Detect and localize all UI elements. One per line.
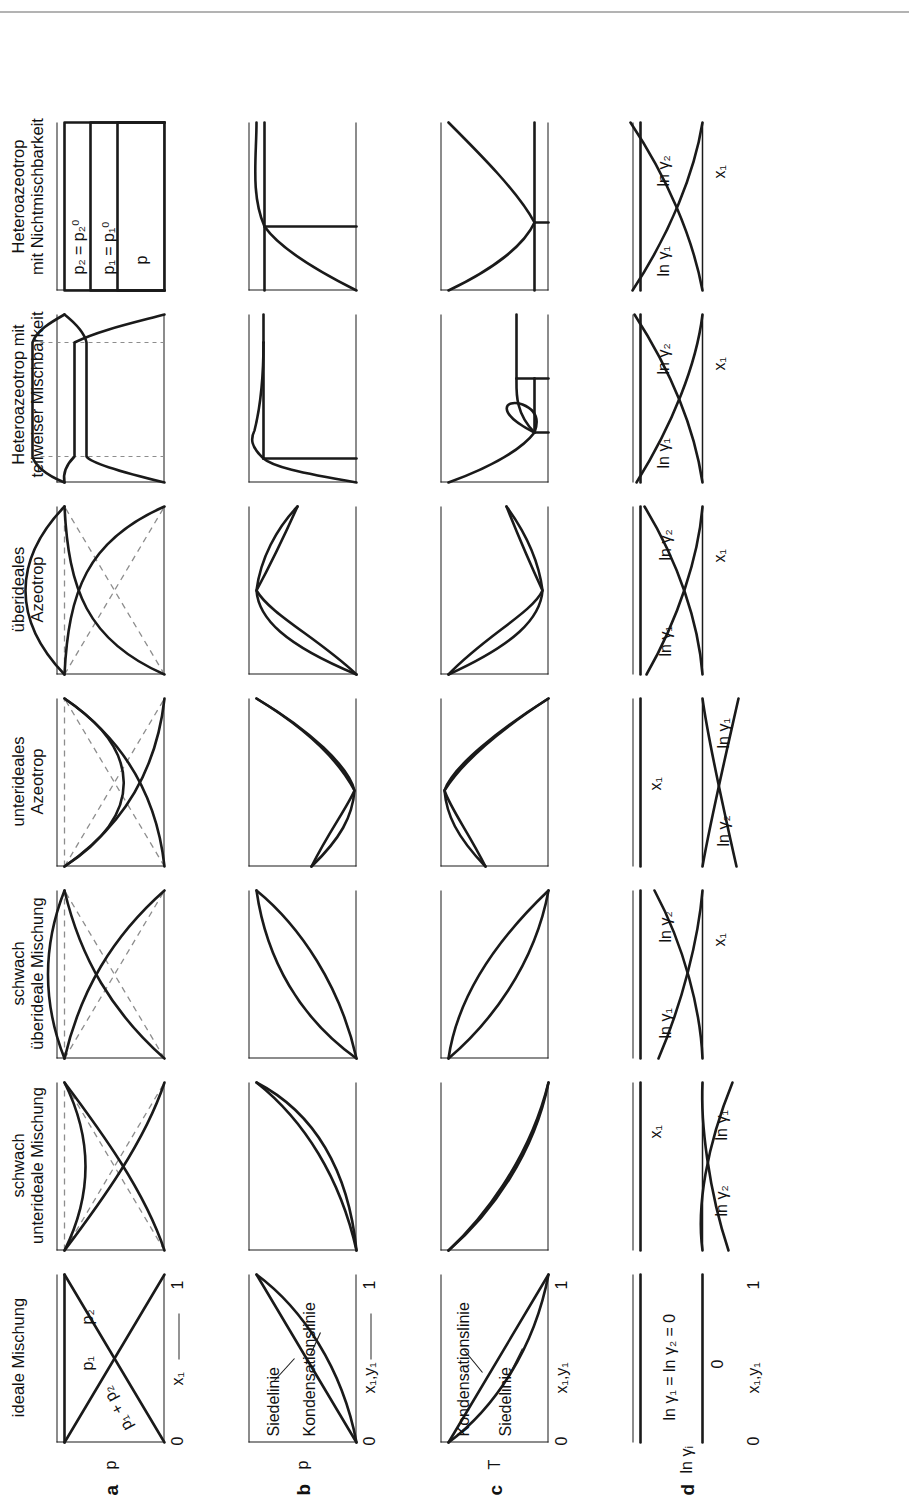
row-a-ylabel: p bbox=[101, 1460, 119, 1469]
figure-rotated-canvas: ideale Mischung schwachunterideale Misch… bbox=[0, 0, 909, 1505]
column-header-line1: ideale Mischung bbox=[8, 1297, 26, 1416]
column-header-weak-pos: schwachüberideale Mischung bbox=[8, 885, 46, 1061]
row-c-tick-1: 1 bbox=[552, 1280, 570, 1289]
panel-b-az-neg bbox=[248, 698, 356, 866]
row-tag-c: c bbox=[484, 1484, 506, 1495]
panel-d-ideal: ln γ₁ = ln γ₂ = 0 0 bbox=[632, 1274, 740, 1442]
row-d-tick-1: 1 bbox=[744, 1280, 762, 1289]
panel-a-az-neg bbox=[56, 698, 164, 866]
row-b-tick-0: 0 bbox=[360, 1436, 378, 1445]
row-d-xlabel: x₁,y₁ bbox=[744, 1362, 762, 1393]
label-kondensationslinie: Kondensationslinie bbox=[300, 1302, 318, 1436]
label-p1: p₁ bbox=[78, 1356, 96, 1370]
panel-c-az-neg bbox=[440, 698, 548, 866]
label-ln-gamma-1: ln γ₁ bbox=[654, 246, 672, 276]
panel-b-az-pos bbox=[248, 506, 356, 674]
label-zero-tick: 0 bbox=[708, 1359, 726, 1368]
panel-c-az-pos bbox=[440, 506, 548, 674]
label-x1: x₁ bbox=[710, 933, 728, 946]
label-ln-gamma-2: ln γ₂ bbox=[654, 343, 672, 374]
column-header-weak-neg: schwachunterideale Mischung bbox=[8, 1077, 46, 1253]
column-header-line1: Heteroazeotrop bbox=[8, 139, 26, 253]
column-header-line1: schwach bbox=[8, 1133, 26, 1197]
row-a-tick-0: 0 bbox=[168, 1436, 186, 1445]
panel-b-hetero-part bbox=[248, 314, 356, 482]
column-header-line1: schwach bbox=[8, 941, 26, 1005]
panel-d-weak-neg: x₁ ln γ₁ ln γ₂ bbox=[632, 1082, 740, 1250]
panel-a-weak-pos bbox=[56, 890, 164, 1058]
row-a-tick-1: 1 bbox=[168, 1280, 186, 1289]
panel-b-hetero-none bbox=[248, 122, 356, 290]
label-ln-gamma-2: ln γ₂ bbox=[656, 911, 674, 942]
column-header-hetero-part: Heteroazeotrop mitteilweiser Mischbarkei… bbox=[8, 299, 46, 489]
row-tag-b: b bbox=[292, 1483, 314, 1495]
row-b-xlabel: x₁,y₁ bbox=[360, 1362, 378, 1393]
panel-b-weak-neg bbox=[248, 1082, 356, 1250]
panel-c-ideal: Kondensationslinie Siedelinie bbox=[440, 1274, 548, 1442]
label-ln-gamma-2: ln γ₂ bbox=[714, 815, 732, 846]
panel-a-hetero-part bbox=[56, 314, 164, 482]
panel-d-hetero-none: x₁ ln γ₂ ln γ₁ bbox=[632, 122, 740, 290]
row-d-tick-0: 0 bbox=[744, 1436, 762, 1445]
panel-a-az-pos bbox=[56, 506, 164, 674]
column-header-line2: unterideale Mischung bbox=[27, 1087, 45, 1244]
column-header-az-pos: überidealesAzeotrop bbox=[8, 501, 46, 677]
figure-container: ideale Mischung schwachunterideale Misch… bbox=[0, 0, 909, 1505]
panel-a-ideal: p₁ + p₂ p₁ p₂ bbox=[56, 1274, 164, 1442]
row-b-ylabel: p bbox=[293, 1460, 311, 1469]
label-x1: x₁ bbox=[710, 549, 728, 562]
label-total-p: p bbox=[132, 255, 150, 264]
label-siedelinie: Siedelinie bbox=[496, 1367, 514, 1436]
panel-d-az-neg: x₁ ln γ₁ ln γ₂ bbox=[632, 698, 740, 866]
row-a-axis-arrow bbox=[178, 1313, 179, 1359]
label-x1: x₁ bbox=[710, 357, 728, 370]
panel-d-az-pos: x₁ ln γ₂ ln γ₁ bbox=[632, 506, 740, 674]
panel-d-weak-pos: x₁ ln γ₂ ln γ₁ bbox=[632, 890, 740, 1058]
label-ln-gamma-zero: ln γ₁ = ln γ₂ = 0 bbox=[660, 1313, 678, 1420]
row-d-ylabel: ln γᵢ bbox=[677, 1446, 695, 1473]
label-kondensationslinie: Kondensationslinie bbox=[454, 1302, 472, 1436]
panel-c-hetero-part bbox=[440, 314, 548, 482]
label-ln-gamma-1: ln γ₁ bbox=[712, 1110, 730, 1140]
column-header-line2: überideale Mischung bbox=[27, 897, 45, 1049]
row-c-tick-0: 0 bbox=[552, 1436, 570, 1445]
label-p2: p₂ bbox=[78, 1309, 96, 1324]
row-a-xlabel: x₁ bbox=[168, 1372, 186, 1385]
row-tag-a: a bbox=[100, 1484, 122, 1495]
column-header-line1: überideales bbox=[8, 546, 26, 631]
label-ln-gamma-1: ln γ₁ bbox=[654, 438, 672, 468]
label-ln-gamma-2: ln γ₂ bbox=[712, 1185, 730, 1216]
column-header-line2: mit Nichtmischbarkeit bbox=[27, 118, 45, 275]
label-x1: x₁ bbox=[646, 1125, 664, 1138]
panel-c-hetero-none bbox=[440, 122, 548, 290]
panel-a-weak-neg bbox=[56, 1082, 164, 1250]
column-header-az-neg: unteridealesAzeotrop bbox=[8, 693, 46, 869]
panel-b-ideal: Siedelinie Kondensationslinie bbox=[248, 1274, 356, 1442]
label-ln-gamma-1: ln γ₁ bbox=[656, 626, 674, 656]
row-c-xlabel: x₁,y₁ bbox=[552, 1362, 570, 1393]
panel-b-weak-pos bbox=[248, 890, 356, 1058]
row-b-tick-1: 1 bbox=[360, 1280, 378, 1289]
column-header-ideal: ideale Mischung bbox=[8, 1269, 27, 1445]
label-p1-equals-p1-0: p₁ = p₁⁰ bbox=[98, 221, 117, 274]
row-b-axis-arrow bbox=[370, 1313, 371, 1359]
label-x1: x₁ bbox=[646, 777, 664, 790]
label-p2-equals-p2-0: p₂ = p₂⁰ bbox=[68, 220, 87, 274]
label-ln-gamma-1: ln γ₁ bbox=[714, 718, 732, 748]
label-x1: x₁ bbox=[710, 165, 728, 178]
panel-c-weak-pos bbox=[440, 890, 548, 1058]
label-siedelinie: Siedelinie bbox=[264, 1367, 282, 1436]
panel-c-weak-neg bbox=[440, 1082, 548, 1250]
row-c-ylabel: T bbox=[485, 1459, 503, 1469]
label-ln-gamma-1: ln γ₁ bbox=[656, 1008, 674, 1038]
label-ln-gamma-2: ln γ₂ bbox=[654, 155, 672, 186]
column-header-hetero-none: Heteroazeotropmit Nichtmischbarkeit bbox=[8, 101, 46, 291]
column-header-line1: Heteroazeotrop mit bbox=[8, 324, 26, 464]
column-header-line1: unterideales bbox=[8, 736, 26, 826]
row-tag-d: d bbox=[676, 1483, 698, 1495]
panel-d-hetero-part: x₁ ln γ₂ ln γ₁ bbox=[632, 314, 740, 482]
label-ln-gamma-2: ln γ₂ bbox=[656, 529, 674, 560]
column-header-line2: Azeotrop bbox=[27, 748, 45, 814]
panel-a-hetero-none: p p₁ = p₁⁰ p₂ = p₂⁰ bbox=[56, 122, 164, 290]
